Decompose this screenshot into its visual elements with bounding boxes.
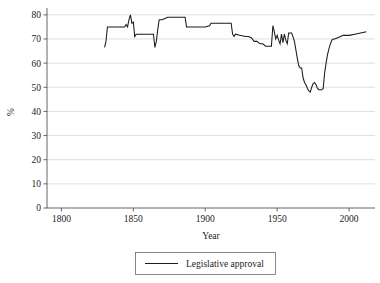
x-tick-label-1800: 1800 [52, 214, 71, 224]
series-line-legislative-approval [105, 15, 367, 92]
y-tick-label-80: 80 [32, 10, 42, 20]
x-tick-label-2000: 2000 [340, 214, 359, 224]
line-chart: 01020304050607080 18001850190019502000 Y… [0, 0, 380, 283]
x-tick-label-1850: 1850 [124, 214, 143, 224]
x-tick-label-1950: 1950 [268, 214, 287, 224]
y-tick-label-10: 10 [32, 179, 42, 189]
y-tick-label-70: 70 [32, 34, 42, 44]
axis-lines-group [47, 8, 375, 208]
chart-container: 01020304050607080 18001850190019502000 Y… [0, 0, 380, 283]
legend-label-legislative-approval: Legislative approval [186, 259, 264, 269]
x-tick-label-1900: 1900 [196, 214, 215, 224]
gridlines-group [47, 15, 375, 184]
y-tick-label-40: 40 [32, 107, 42, 117]
y-tick-label-30: 30 [32, 131, 42, 141]
y-axis-title: % [6, 108, 16, 116]
data-series-group [105, 15, 367, 92]
y-tick-label-0: 0 [36, 203, 41, 213]
x-axis-title: Year [202, 231, 220, 241]
y-axis-ticks-group: 01020304050607080 [32, 10, 48, 213]
x-axis-ticks-group: 18001850190019502000 [52, 208, 359, 224]
legend: Legislative approval [136, 253, 276, 275]
y-tick-label-50: 50 [32, 83, 42, 93]
y-tick-label-20: 20 [32, 155, 42, 165]
y-tick-label-60: 60 [32, 59, 42, 69]
